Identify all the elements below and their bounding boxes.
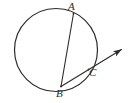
chord-ab [61,14,74,87]
point-label-b: B [56,88,63,99]
geometry-canvas [0,0,135,103]
geometry-figure: A B C [0,0,135,103]
main-circle [15,9,98,92]
point-label-c: C [89,67,96,78]
point-a-marker [73,13,75,15]
point-label-a: A [68,1,75,12]
